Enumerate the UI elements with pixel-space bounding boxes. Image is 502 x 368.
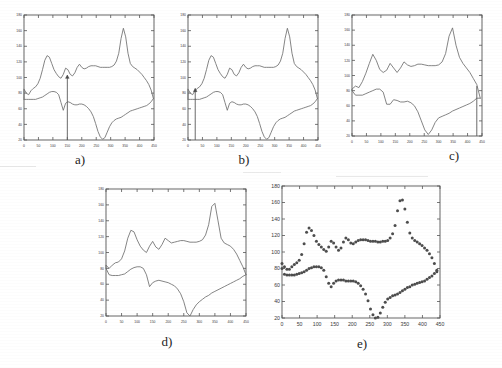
scan-artifact-left xyxy=(0,166,36,167)
svg-text:150: 150 xyxy=(330,321,339,327)
chart-panel-d: 0501001502002503003504004502040608010012… xyxy=(90,180,250,328)
chart-panel-e: 0501001502002503003504004502040608010012… xyxy=(262,180,452,330)
svg-text:100: 100 xyxy=(344,74,350,78)
svg-text:80: 80 xyxy=(274,265,280,271)
svg-text:400: 400 xyxy=(418,321,427,327)
chart-svg-b: 0501001502002503003504004502040608010012… xyxy=(172,6,322,151)
svg-text:60: 60 xyxy=(274,282,280,288)
svg-text:250: 250 xyxy=(365,321,374,327)
svg-text:80: 80 xyxy=(182,91,186,95)
svg-text:250: 250 xyxy=(257,144,263,148)
chart-svg-d: 0501001502002503003504004502040608010012… xyxy=(90,180,250,328)
scan-artifact-mid xyxy=(243,172,281,173)
svg-text:60: 60 xyxy=(182,107,186,111)
panel-caption-d: d) xyxy=(145,334,189,350)
svg-text:200: 200 xyxy=(407,140,413,144)
svg-text:120: 120 xyxy=(344,59,350,63)
chart-panel-a: 0501001502002503003504004502040608010012… xyxy=(8,6,158,151)
svg-text:200: 200 xyxy=(165,320,171,324)
svg-text:120: 120 xyxy=(16,60,22,64)
svg-text:60: 60 xyxy=(346,104,350,108)
svg-text:100: 100 xyxy=(313,321,322,327)
svg-text:20: 20 xyxy=(274,315,280,321)
svg-text:160: 160 xyxy=(344,28,350,32)
svg-text:80: 80 xyxy=(18,91,22,95)
svg-text:50: 50 xyxy=(365,140,369,144)
svg-text:80: 80 xyxy=(100,267,104,271)
svg-text:350: 350 xyxy=(122,144,128,148)
svg-text:100: 100 xyxy=(98,251,104,255)
svg-text:400: 400 xyxy=(228,320,234,324)
svg-text:40: 40 xyxy=(18,123,22,127)
chart-svg-c: 0501001502002503003504004502040608010012… xyxy=(336,6,486,151)
svg-text:140: 140 xyxy=(344,43,350,47)
svg-text:450: 450 xyxy=(479,140,485,144)
svg-text:150: 150 xyxy=(150,320,156,324)
svg-text:160: 160 xyxy=(16,29,22,33)
panel-caption-a: a) xyxy=(58,152,102,168)
svg-text:100: 100 xyxy=(134,320,140,324)
svg-text:160: 160 xyxy=(271,199,280,205)
svg-text:0: 0 xyxy=(351,140,353,144)
svg-text:180: 180 xyxy=(180,13,186,17)
svg-text:200: 200 xyxy=(348,321,357,327)
svg-text:300: 300 xyxy=(108,144,114,148)
svg-text:450: 450 xyxy=(436,321,445,327)
svg-text:350: 350 xyxy=(401,321,410,327)
svg-text:40: 40 xyxy=(100,298,104,302)
svg-text:100: 100 xyxy=(16,76,22,80)
svg-text:200: 200 xyxy=(79,144,85,148)
svg-text:50: 50 xyxy=(201,144,205,148)
svg-text:140: 140 xyxy=(271,216,280,222)
svg-text:400: 400 xyxy=(137,144,143,148)
svg-text:120: 120 xyxy=(98,235,104,239)
svg-text:60: 60 xyxy=(100,282,104,286)
svg-text:50: 50 xyxy=(37,144,41,148)
svg-text:60: 60 xyxy=(18,107,22,111)
svg-text:300: 300 xyxy=(272,144,278,148)
svg-text:350: 350 xyxy=(450,140,456,144)
svg-text:0: 0 xyxy=(281,321,284,327)
svg-text:350: 350 xyxy=(212,320,218,324)
svg-text:40: 40 xyxy=(346,119,350,123)
svg-text:120: 120 xyxy=(271,232,280,238)
chart-svg-e: 0501001502002503003504004502040608010012… xyxy=(262,180,452,330)
svg-text:40: 40 xyxy=(274,298,280,304)
svg-text:300: 300 xyxy=(436,140,442,144)
chart-svg-a: 0501001502002503003504004502040608010012… xyxy=(8,6,158,151)
svg-text:180: 180 xyxy=(344,13,350,17)
svg-text:20: 20 xyxy=(18,138,22,142)
svg-text:300: 300 xyxy=(196,320,202,324)
svg-text:400: 400 xyxy=(301,144,307,148)
svg-text:100: 100 xyxy=(271,249,280,255)
svg-text:80: 80 xyxy=(346,89,350,93)
svg-text:20: 20 xyxy=(100,314,104,318)
panel-caption-b: b) xyxy=(222,152,266,168)
svg-text:200: 200 xyxy=(243,144,249,148)
svg-text:0: 0 xyxy=(23,144,25,148)
svg-text:120: 120 xyxy=(180,60,186,64)
svg-text:350: 350 xyxy=(286,144,292,148)
figure-panel-grid: 0501001502002503003504004502040608010012… xyxy=(0,0,502,368)
svg-text:250: 250 xyxy=(181,320,187,324)
svg-text:150: 150 xyxy=(228,144,234,148)
svg-text:150: 150 xyxy=(64,144,70,148)
chart-panel-c: 0501001502002503003504004502040608010012… xyxy=(336,6,486,151)
svg-text:400: 400 xyxy=(465,140,471,144)
svg-text:300: 300 xyxy=(383,321,392,327)
svg-text:140: 140 xyxy=(16,44,22,48)
svg-text:50: 50 xyxy=(297,321,303,327)
svg-text:100: 100 xyxy=(378,140,384,144)
svg-text:250: 250 xyxy=(93,144,99,148)
svg-text:180: 180 xyxy=(271,183,280,189)
svg-text:450: 450 xyxy=(151,144,157,148)
svg-text:0: 0 xyxy=(105,320,107,324)
svg-text:100: 100 xyxy=(50,144,56,148)
svg-text:20: 20 xyxy=(182,138,186,142)
svg-text:160: 160 xyxy=(98,203,104,207)
svg-text:180: 180 xyxy=(16,13,22,17)
svg-text:20: 20 xyxy=(346,134,350,138)
svg-text:100: 100 xyxy=(180,76,186,80)
svg-text:450: 450 xyxy=(315,144,321,148)
svg-text:140: 140 xyxy=(98,219,104,223)
